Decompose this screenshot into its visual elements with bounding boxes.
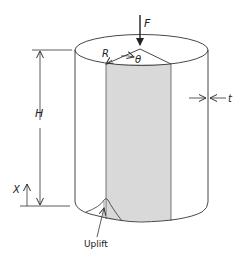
shaded-panel <box>106 64 171 221</box>
cylinder-diagram: F R θ H t X Uplift <box>0 0 245 263</box>
angle-label: θ <box>135 54 141 65</box>
radius-line-right <box>140 49 171 64</box>
uplift-leader <box>97 208 104 237</box>
x-label: X <box>12 184 21 195</box>
height-label: H <box>35 107 43 120</box>
thickness-label: t <box>228 93 233 104</box>
force-label: F <box>144 17 151 30</box>
radius-label: R <box>102 48 109 59</box>
uplift-label: Uplift <box>84 239 108 249</box>
